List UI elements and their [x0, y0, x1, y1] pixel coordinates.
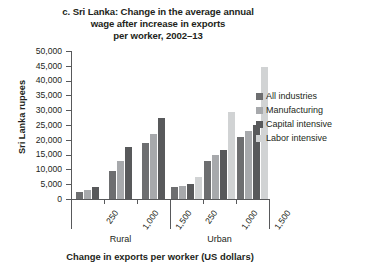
y-axis-tick-label: 35,000	[36, 91, 62, 100]
chart-legend: All industriesManufacturingCapital inten…	[256, 89, 372, 146]
bar	[195, 177, 202, 199]
y-axis-tick-label: 20,000	[36, 136, 62, 145]
x-axis-group-divider	[71, 199, 72, 229]
x-axis-category-label: 1,500	[173, 208, 194, 231]
y-axis-tick-label: 0	[57, 195, 62, 204]
chart-title-line-1: c. Sri Lanka: Change in the average annu…	[38, 6, 278, 18]
x-axis-tick	[137, 199, 138, 204]
bar	[142, 143, 149, 199]
legend-item[interactable]: Capital intensive	[256, 117, 372, 131]
x-axis-tick	[236, 199, 237, 204]
bar	[171, 187, 178, 199]
y-axis-tick-label: 45,000	[36, 62, 62, 71]
bar	[204, 161, 211, 199]
legend-swatch-icon	[256, 135, 263, 142]
x-axis-group-divider	[170, 199, 171, 229]
chart-title-line-3: per worker, 2002–13	[38, 30, 278, 42]
chart-title-line-2: wage after increase in exports	[38, 18, 278, 30]
x-axis-category-label: 1,500	[272, 208, 293, 231]
bar	[187, 184, 194, 199]
bar	[117, 161, 124, 199]
y-axis-tick-label: 40,000	[36, 76, 62, 85]
legend-swatch-icon	[256, 93, 263, 100]
legend-label: Labor intensive	[266, 134, 327, 143]
bar	[76, 192, 83, 199]
legend-swatch-icon	[256, 107, 263, 114]
bar	[228, 112, 235, 199]
y-axis-tick-label: 15,000	[36, 150, 62, 159]
bar	[150, 134, 157, 199]
x-axis-group-label: Urban	[170, 234, 269, 244]
bar	[158, 118, 165, 199]
legend-swatch-icon	[256, 121, 263, 128]
legend-label: Capital intensive	[266, 120, 332, 129]
bar	[237, 137, 244, 199]
x-axis-group-divider	[269, 199, 270, 229]
bar	[220, 150, 227, 199]
x-axis-tick	[104, 199, 105, 204]
legend-label: Manufacturing	[266, 106, 323, 115]
x-axis-title: Change in exports per worker (US dollars…	[0, 251, 320, 262]
x-axis-group-label: Rural	[71, 234, 170, 244]
legend-item[interactable]: Manufacturing	[256, 103, 372, 117]
x-axis-category-label: 1,000	[239, 208, 260, 231]
legend-item[interactable]: Labor intensive	[256, 132, 372, 146]
y-axis-tick-label: 30,000	[36, 106, 62, 115]
bar	[92, 187, 99, 199]
x-axis-category-label: 1,000	[140, 208, 161, 231]
x-axis-category-label: 250	[104, 208, 120, 225]
y-axis-tick-label: 50,000	[36, 47, 62, 56]
plot-area	[71, 51, 269, 199]
y-axis-title: Sri Lanka rupees	[17, 62, 27, 172]
bar	[84, 190, 91, 199]
chart-title: c. Sri Lanka: Change in the average annu…	[38, 6, 278, 43]
x-axis-tick	[203, 199, 204, 204]
y-axis-tick-label: 25,000	[36, 121, 62, 130]
legend-label: All industries	[266, 92, 317, 101]
y-axis-tick-label: 5,000	[40, 180, 62, 189]
bar	[212, 155, 219, 199]
bar	[179, 186, 186, 199]
bar	[109, 171, 116, 199]
bar	[125, 147, 132, 199]
y-axis-tick-label: 10,000	[36, 165, 62, 174]
legend-item[interactable]: All industries	[256, 89, 372, 103]
x-axis-category-label: 250	[203, 208, 219, 225]
bar	[245, 131, 252, 199]
